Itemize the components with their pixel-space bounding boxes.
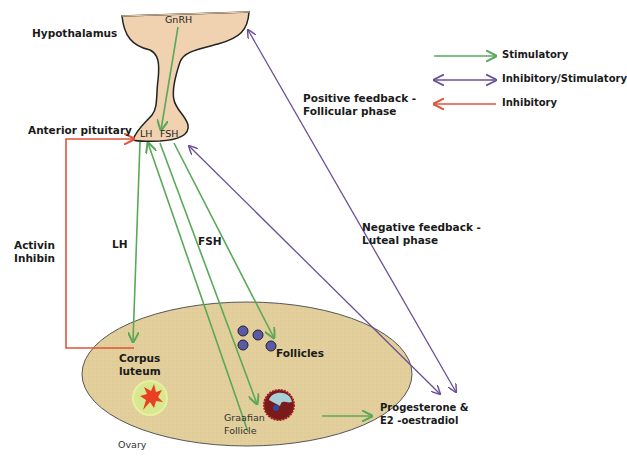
positive-feedback-label-2: Follicular phase [303, 103, 396, 119]
follicles-label: Follicles [276, 345, 324, 361]
pituitary-lh-label: LH [140, 128, 152, 140]
anterior-pituitary-label: Anterior pituitary [28, 122, 132, 138]
hypothalamus-shape [122, 12, 249, 141]
lh-arrow [133, 142, 140, 342]
graafian-follicle-shape [264, 390, 294, 420]
legend-stimulatory-label: Stimulatory [502, 49, 568, 60]
legend-bidirectional-label: Inhibitory/Stimulatory [502, 73, 627, 84]
oestradiol-label: E2 -oestradiol [380, 413, 458, 429]
luteum-label: luteum [119, 363, 161, 379]
pituitary-fsh-label: FSH [160, 128, 178, 140]
negative-feedback-label-2: Luteal phase [362, 232, 438, 248]
lh-arrow-label: LH [112, 236, 127, 252]
hypothalamus-label: Hypothalamus [32, 25, 117, 41]
gnrh-label: GnRH [165, 14, 192, 26]
follicle-label: Follicle [224, 424, 257, 437]
legend-inhibitory-label: Inhibitory [502, 97, 557, 108]
ovary-label: Ovary [118, 438, 146, 451]
inhibin-label: Inhibin [14, 250, 55, 266]
graafian-label: Graafian [224, 411, 265, 424]
corpus-luteum-shape [133, 381, 167, 415]
fsh-arrow-label: FSH [198, 233, 222, 249]
